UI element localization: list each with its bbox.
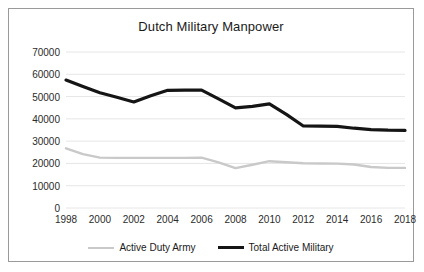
x-tick-label: 2012: [292, 214, 314, 225]
y-tick-label: 30000: [16, 136, 60, 147]
series-line-1: [66, 148, 405, 168]
x-tick-label: 2000: [89, 214, 111, 225]
y-tick-label: 0: [16, 203, 60, 214]
x-tick-label: 2002: [123, 214, 145, 225]
y-tick-label: 60000: [16, 69, 60, 80]
series-line-2: [66, 80, 405, 130]
x-tick-label: 2014: [326, 214, 348, 225]
legend-label: Active Duty Army: [119, 242, 195, 253]
chart-container: Dutch Military Manpower 0100002000030000…: [8, 8, 414, 262]
x-tick-label: 2018: [394, 214, 416, 225]
y-tick-label: 50000: [16, 91, 60, 102]
x-tick-label: 1998: [55, 214, 77, 225]
x-tick-label: 2008: [224, 214, 246, 225]
plot-area: 010000200003000040000500006000070000 199…: [9, 9, 415, 263]
x-tick-label: 2006: [190, 214, 212, 225]
chart-legend: Active Duty ArmyTotal Active Military: [9, 242, 413, 253]
y-tick-label: 10000: [16, 180, 60, 191]
x-tick-label: 2016: [360, 214, 382, 225]
legend-color-swatch: [88, 247, 114, 249]
x-tick-label: 2004: [157, 214, 179, 225]
legend-color-swatch: [218, 246, 244, 249]
y-tick-label: 20000: [16, 158, 60, 169]
x-tick-label: 2010: [258, 214, 280, 225]
legend-item-1[interactable]: Active Duty Army: [88, 242, 195, 253]
legend-label: Total Active Military: [249, 242, 334, 253]
legend-item-2[interactable]: Total Active Military: [218, 242, 334, 253]
y-tick-label: 40000: [16, 113, 60, 124]
y-tick-label: 70000: [16, 47, 60, 58]
